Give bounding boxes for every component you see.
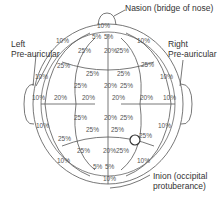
percent-label: 25% (86, 71, 99, 78)
right-temporal-arc (126, 33, 171, 176)
inion-label: Inion (occipital protuberance) (153, 172, 207, 192)
percent-label: 25% (116, 148, 129, 155)
percent-label: 10% (103, 176, 116, 183)
left-preauricular-label: Left Pre-auricular (11, 40, 60, 60)
percent-label: 10% (36, 123, 49, 130)
percent-label: 25% (120, 115, 133, 122)
percent-label: 5% (104, 34, 113, 41)
percent-label: 25% (116, 48, 129, 55)
right-preauricular-line2: Pre-auricular (168, 50, 217, 60)
percent-label: 10% (57, 158, 70, 165)
eeg-10-20-diagram: Nasion (bridge of nose) Left Pre-auricul… (0, 0, 218, 197)
percent-label: 25% (57, 63, 70, 70)
percent-label: 5% (105, 164, 114, 171)
percent-label: 25% (58, 136, 71, 143)
percent-label: 25% (120, 83, 133, 90)
percent-label: 10% (137, 158, 150, 165)
left-preauricular-line2: Pre-auricular (11, 50, 60, 60)
percent-label: 10% (137, 38, 150, 45)
nasion-callout-line (114, 10, 125, 16)
percent-label: 10% (32, 95, 45, 102)
percent-label: 20% (103, 148, 116, 155)
percent-label: 20% (104, 83, 117, 90)
left-ear (24, 84, 34, 124)
percent-label: 25% (78, 48, 91, 55)
percent-label: 10% (97, 23, 110, 30)
percent-label: 10% (158, 123, 171, 130)
percent-label: 25% (74, 115, 87, 122)
percent-label: 10% (56, 38, 69, 45)
right-ear-callout-line (180, 60, 183, 86)
percent-label: 25% (77, 148, 90, 155)
right-preauricular-label: Right Pre-auricular (168, 40, 217, 60)
percent-label: 5% (92, 34, 101, 41)
percent-label: 20% (104, 115, 117, 122)
percent-label: 20% (112, 95, 125, 102)
percent-label: 20% (82, 95, 95, 102)
percent-label: 25% (74, 83, 87, 90)
nasion-label: Nasion (bridge of nose) (125, 4, 213, 14)
percent-label: 25% (86, 127, 99, 134)
percent-label: 10% (160, 74, 173, 81)
percent-label: 20% (140, 95, 153, 102)
percent-label: 25% (117, 71, 130, 78)
inion-line2: protuberance) (153, 182, 207, 192)
percent-label: 5% (93, 164, 102, 171)
percent-label: 25% (111, 127, 124, 134)
percent-label: 25% (141, 62, 154, 69)
percent-label: 10% (35, 74, 48, 81)
percent-label: 25% (139, 133, 152, 140)
percent-label: 10% (163, 95, 176, 102)
percent-label: 20% (54, 95, 67, 102)
